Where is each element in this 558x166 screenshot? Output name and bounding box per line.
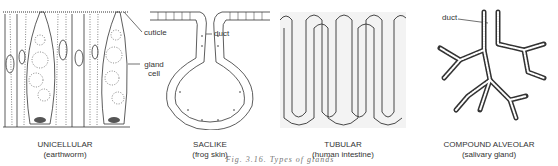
panel-saclike: duct SACLIKE (frog skin) bbox=[150, 0, 270, 150]
compound-alveolar-illustration bbox=[420, 0, 558, 132]
unicellular-illustration bbox=[0, 0, 140, 135]
label-duct-saclike: duct bbox=[214, 29, 229, 38]
saclike-illustration bbox=[150, 0, 270, 130]
panel-unicellular: UNICELLULAR (earthworm) bbox=[0, 0, 140, 150]
panel-tubular: TUBULAR (human intestine) bbox=[278, 0, 408, 150]
panel-compound-alveolar: duct COMPOUND ALVEOLAR (salivary gland) bbox=[420, 0, 558, 150]
caption-compound-alveolar: COMPOUND ALVEOLAR (salivary gland) bbox=[420, 140, 558, 160]
tubular-illustration bbox=[278, 0, 408, 132]
caption-unicellular: UNICELLULAR (earthworm) bbox=[10, 140, 120, 160]
figure-caption: Fig. 3.16. Types of glands bbox=[150, 155, 410, 164]
label-duct-compound: duct bbox=[442, 13, 457, 22]
